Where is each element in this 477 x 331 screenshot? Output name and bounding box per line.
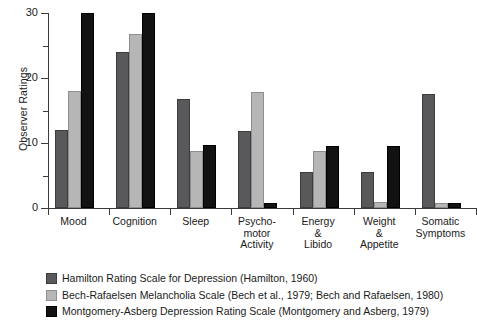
legend-color-swatch (46, 306, 57, 317)
legend-color-swatch (46, 273, 57, 284)
x-axis-tick (354, 208, 355, 215)
x-axis-tick (415, 208, 416, 215)
bar (313, 151, 326, 208)
bar (264, 203, 277, 208)
bar (387, 146, 400, 208)
x-axis-line (48, 208, 476, 209)
legend-color-swatch (46, 290, 57, 301)
legend-item: Hamilton Rating Scale for Depression (Ha… (46, 272, 476, 286)
chart-legend: Hamilton Rating Scale for Depression (Ha… (46, 272, 476, 322)
y-axis-title: Observer Ratings (17, 39, 29, 179)
bar (177, 99, 190, 208)
x-axis-tick (48, 208, 49, 215)
legend-item: Bech-Rafaelsen Melancholia Scale (Bech e… (46, 289, 476, 303)
bar (116, 52, 129, 208)
bar (326, 146, 339, 208)
y-axis-major-tick: 20 (41, 78, 48, 79)
bar (81, 13, 94, 208)
y-axis-major-tick: 10 (41, 143, 48, 144)
bars-layer (49, 13, 476, 208)
y-axis-tick-label: 20 (26, 71, 38, 83)
bar (129, 34, 142, 208)
x-axis-tick (293, 208, 294, 215)
bar (374, 202, 387, 208)
y-axis-tick-label: 30 (26, 6, 38, 18)
bar (190, 151, 203, 208)
bar (142, 13, 155, 208)
bar (435, 203, 448, 208)
bar (251, 92, 264, 208)
legend-label: Montgomery-Asberg Depression Rating Scal… (62, 305, 429, 318)
x-axis-tick (109, 208, 110, 215)
bar (448, 203, 461, 208)
x-axis-tick (170, 208, 171, 215)
x-axis-tick (231, 208, 232, 215)
bar (422, 94, 435, 208)
y-axis-major-tick: 30 (41, 13, 48, 14)
legend-label: Bech-Rafaelsen Melancholia Scale (Bech e… (62, 289, 443, 302)
plot-area: 0102030 MoodCognitionSleepPsycho- motor … (48, 13, 476, 208)
bar (300, 172, 313, 208)
legend-item: Montgomery-Asberg Depression Rating Scal… (46, 305, 476, 319)
bar (55, 130, 68, 208)
bar (203, 145, 216, 208)
bar (238, 131, 251, 208)
bar (68, 91, 81, 208)
bar (361, 172, 374, 208)
x-axis-category-label: Somatic Symptoms (395, 216, 477, 239)
legend-label: Hamilton Rating Scale for Depression (Ha… (62, 272, 318, 285)
y-axis-minor-tick (43, 176, 48, 177)
y-axis-minor-tick (43, 46, 48, 47)
y-axis-minor-tick (43, 111, 48, 112)
y-axis-major-tick: 0 (41, 208, 48, 209)
y-axis-tick-label: 0 (32, 201, 38, 213)
bar-chart-figure: Observer Ratings 0102030 MoodCognitionSl… (0, 0, 477, 331)
y-axis-tick-label: 10 (26, 136, 38, 148)
